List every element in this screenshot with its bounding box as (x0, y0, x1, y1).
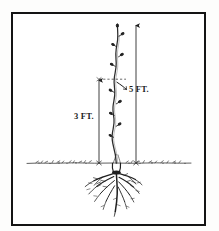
dimension-label-3ft: 3 FT. (74, 111, 94, 121)
figure-root: 3 FT. 5 FT. (0, 0, 219, 231)
figure-frame (11, 12, 206, 226)
dimension-label-5ft: 5 FT. (129, 84, 149, 94)
